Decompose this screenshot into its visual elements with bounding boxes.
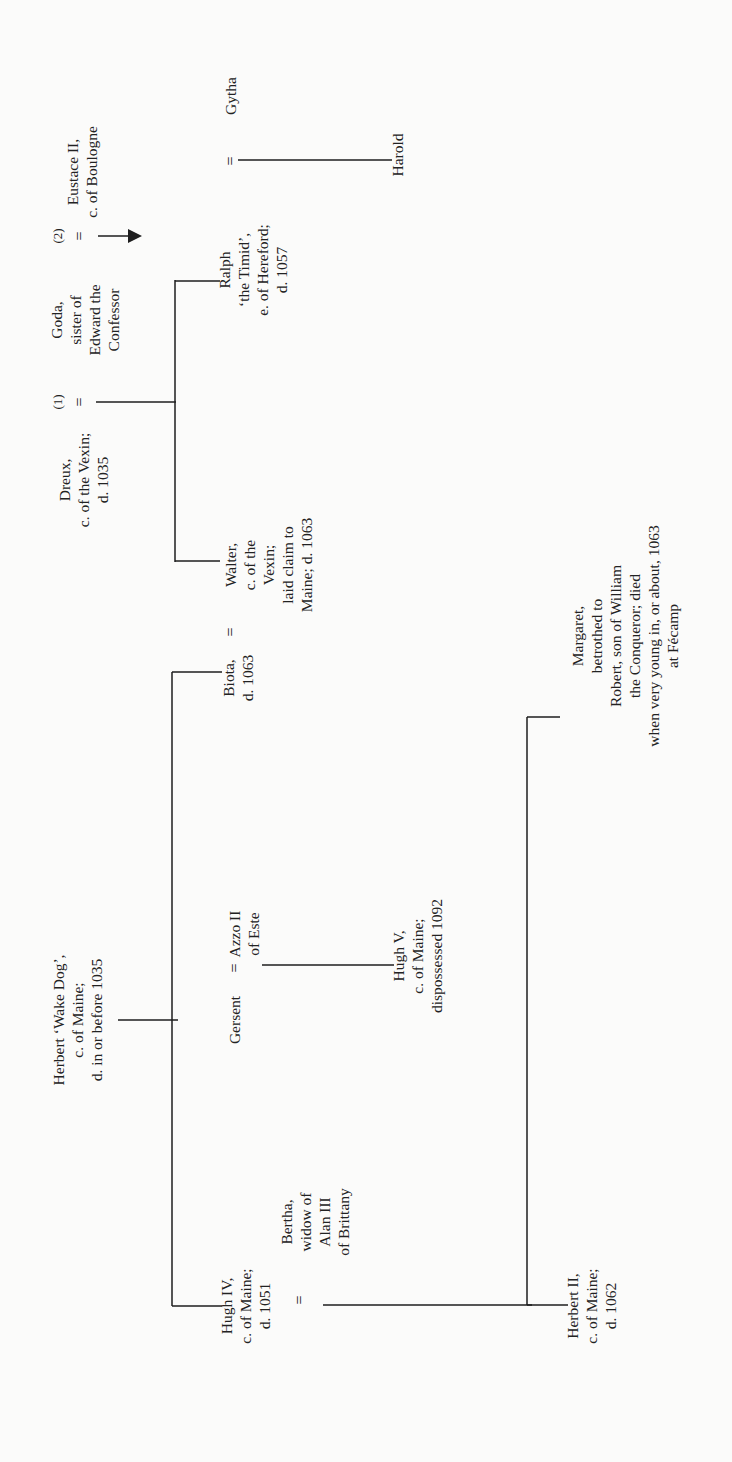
name-label: Goda, (48, 301, 65, 338)
name-label: Hugh V, (390, 930, 407, 981)
name-label: Harold (389, 133, 406, 176)
equals-sign: = (226, 963, 243, 972)
name-label: Herbert II, (564, 1273, 581, 1338)
person-margaret: Margaret, betrothed to Robert, son of Wi… (569, 525, 681, 747)
equals-sign: = (71, 397, 88, 406)
name-label: Herbert ‘Wake Dog’, (50, 955, 67, 1086)
death-label: d. 1057 (273, 247, 290, 294)
desc-label: when very young in, or about, 1063 (645, 525, 662, 747)
equals-sign: = (222, 627, 239, 636)
epithet-label: ‘the Timid’, (235, 233, 252, 307)
person-gersent: Gersent (226, 995, 243, 1044)
name-label: Gersent (226, 995, 243, 1044)
name-label: Azzo II (226, 911, 243, 958)
death-label: Maine; d. 1063 (298, 518, 315, 613)
desc-label: at Fécamp (664, 604, 681, 668)
name-label: Dreux, (56, 459, 73, 502)
desc-label: betrothed to (588, 599, 605, 674)
desc-label: of Este (245, 912, 262, 956)
marriage-mark-goda-eustace: (2) = (50, 228, 88, 243)
death-label: d. 1035 (94, 457, 111, 504)
desc-label: laid claim to (279, 526, 296, 604)
name-label: Gytha (222, 77, 239, 115)
name-label: Margaret, (569, 606, 586, 666)
title-label: c. of Maine; (409, 918, 426, 993)
marriage-mark-dreux-goda: (1) = (50, 394, 88, 409)
desc-label: sister of (67, 294, 84, 344)
desc-label: widow of (297, 1192, 314, 1252)
person-azzo: Azzo II of Este (226, 911, 262, 958)
person-bertha: Bertha, widow of Alan III of Brittany (278, 1188, 352, 1256)
marriage-mark-biota-walter: = (222, 627, 239, 636)
person-dreux: Dreux, c. of the Vexin; d. 1035 (56, 433, 111, 527)
marriage-mark-ralph-gytha: = (222, 156, 239, 165)
equals-sign: = (291, 1295, 308, 1304)
marriage-mark-gersent-azzo: = (226, 963, 243, 972)
person-walter: Walter, c. of the Vexin; laid claim to M… (222, 518, 315, 613)
desc-label: Robert, son of William (607, 565, 624, 707)
desc-label: dispossessed 1092 (428, 899, 445, 1013)
person-hugh-v: Hugh V, c. of Maine; dispossessed 1092 (390, 899, 445, 1013)
title-label: c. of the Vexin; (75, 433, 92, 527)
arrow-icon (128, 229, 142, 243)
desc-label: Alan III (316, 1197, 333, 1247)
equals-sign: = (71, 231, 88, 240)
desc-label: Confessor (105, 288, 122, 352)
name-label: Biota, (220, 659, 237, 696)
title-label: Vexin; (260, 545, 277, 585)
name-label: Walter, (222, 543, 239, 587)
person-biota: Biota, d. 1063 (220, 655, 256, 702)
family-tree-diagram: Herbert ‘Wake Dog’, c. of Maine; d. in o… (0, 0, 732, 1462)
desc-label: Edward the (86, 284, 103, 355)
name-label: Hugh IV, (218, 1278, 235, 1335)
title-label: c. of Maine; (237, 1268, 254, 1343)
person-eustace: Eustace II, c. of Boulogne (64, 126, 100, 218)
person-goda: Goda, sister of Edward the Confessor (48, 284, 122, 355)
marriage-mark-hugh-bertha: = (291, 1295, 308, 1304)
death-label: d. 1063 (239, 655, 256, 702)
person-ralph: Ralph ‘the Timid’, e. of Hereford; d. 10… (216, 224, 290, 316)
title-label: c. of Maine; (583, 1268, 600, 1343)
name-label: Bertha, (278, 1199, 295, 1244)
title-label: c. of Boulogne (83, 126, 100, 218)
person-herbert-ii: Herbert II, c. of Maine; d. 1062 (564, 1268, 619, 1343)
equals-sign: = (222, 156, 239, 165)
person-harold: Harold (389, 133, 406, 176)
death-label: d. 1051 (256, 1283, 273, 1330)
desc-label: of Brittany (335, 1188, 352, 1256)
marriage-number-label: (2) (50, 228, 65, 243)
marriage-number-label: (1) (50, 394, 65, 409)
person-hugh-iv: Hugh IV, c. of Maine; d. 1051 (218, 1268, 273, 1343)
person-gytha: Gytha (222, 77, 239, 115)
name-label: Eustace II, (64, 139, 81, 205)
death-label: d. 1062 (602, 1283, 619, 1330)
death-label: d. in or before 1035 (88, 958, 105, 1081)
desc-label: the Conqueror; died (626, 574, 643, 698)
title-label: e. of Hereford; (254, 224, 271, 316)
person-herbert-wake-dog: Herbert ‘Wake Dog’, c. of Maine; d. in o… (50, 955, 105, 1086)
name-label: Ralph (216, 251, 233, 288)
title-label: c. of Maine; (69, 982, 86, 1057)
title-label: c. of the (241, 540, 258, 590)
